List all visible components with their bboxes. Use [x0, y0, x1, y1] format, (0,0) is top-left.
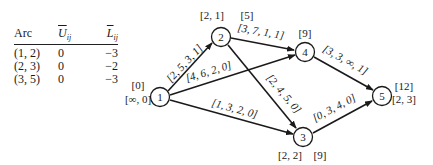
- node-5: 5: [373, 87, 392, 106]
- node-3: 3: [294, 128, 313, 147]
- svg-text:1: 1: [157, 91, 163, 103]
- network-graph: [2, 5, 3, 1] [4, 6, 2, 0] [1, 3, 2, 0] […: [0, 0, 433, 165]
- node-2: 2: [212, 28, 231, 47]
- arc-2-4: [231, 38, 294, 50]
- node-4-top-label: [9]: [299, 27, 312, 39]
- node-5-top-label: [12]: [395, 80, 413, 92]
- arc-label-1-3: [1, 3, 2, 0]: [210, 96, 259, 120]
- node-5-bottom-label: [2, 3]: [392, 93, 416, 105]
- svg-text:4: 4: [302, 46, 308, 58]
- node-1-bottom-label: [∞, 0]: [125, 93, 151, 105]
- svg-text:2: 2: [218, 31, 224, 43]
- svg-text:5: 5: [379, 90, 385, 102]
- arc-label-2-4: [3, 7, 1, 1]: [237, 21, 285, 41]
- arc-label-4-5: [3, 3, ∞, 1]: [321, 42, 370, 76]
- node-3-bottom-label: [2, 2]: [278, 149, 302, 161]
- node-2-extra-label: [5]: [241, 9, 254, 21]
- node-1-top-label: [0]: [132, 79, 145, 91]
- arc-label-2-3: [2, 4, 5, 0]: [264, 72, 303, 116]
- svg-text:3: 3: [300, 131, 306, 143]
- arc-label-3-5: [0, 3, 4, 0]: [310, 91, 357, 124]
- node-4: 4: [296, 43, 315, 62]
- node-1: 1: [151, 88, 170, 107]
- node-3-extra-label: [9]: [314, 149, 327, 161]
- node-2-top-label: [2, 1]: [200, 9, 224, 21]
